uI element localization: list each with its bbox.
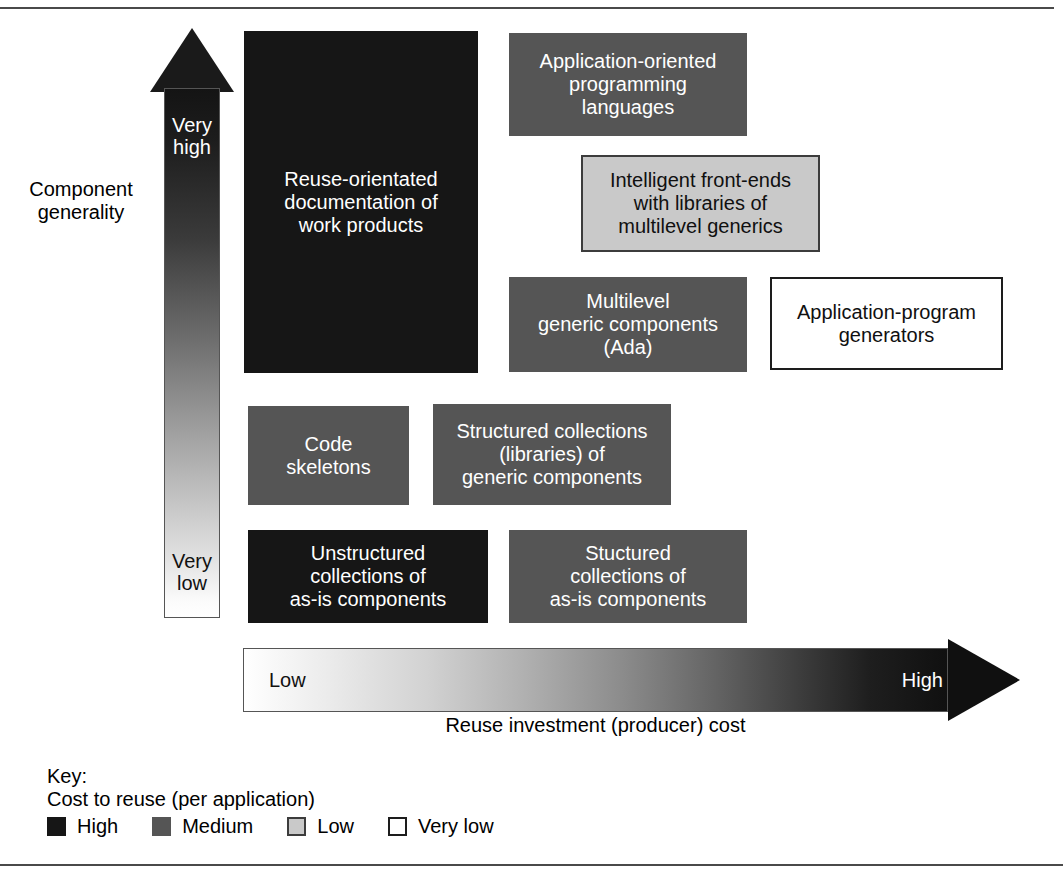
swatch-low-icon (287, 817, 306, 836)
key-heading-block: Key: Cost to reuse (per application) (47, 765, 315, 811)
cell-label: Reuse-orientated documentation of work p… (284, 168, 437, 237)
cell-label: Application-program generators (797, 301, 976, 347)
frame-rule-bottom (0, 864, 1063, 866)
key-entry-label: High (77, 815, 118, 838)
cell-application-program-generators: Application-program generators (770, 277, 1003, 370)
cell-label: Multilevel generic components (Ada) (538, 290, 718, 359)
frame-rule-top (0, 7, 1054, 9)
cell-code-skeletons: Code skeletons (248, 406, 409, 505)
key-entry-high: High (47, 815, 118, 838)
key-legend: High Medium Low Very low (47, 815, 494, 838)
cell-multilevel-generic-components: Multilevel generic components (Ada) (509, 277, 747, 372)
y-axis-top-label-line1: Very (172, 114, 212, 136)
x-axis-high-label: High (873, 669, 943, 692)
cost-gradient-bar (243, 648, 948, 712)
cell-label: Unstructured collections of as-is compon… (290, 542, 447, 611)
cell-label: Application-oriented programming languag… (540, 50, 717, 119)
y-axis-bottom-label-line2: low (177, 572, 207, 594)
cell-label: Intelligent front-ends with libraries of… (610, 169, 791, 238)
right-arrow-icon (948, 639, 1020, 721)
x-axis-low-label: Low (269, 669, 306, 692)
generality-gradient-bar (164, 88, 220, 618)
y-axis-top-label-line2: high (173, 136, 211, 158)
cell-label: Stuctured collections of as-is component… (550, 542, 707, 611)
up-arrow-icon (150, 28, 234, 92)
swatch-medium-icon (152, 817, 171, 836)
cell-application-oriented-programming-languages: Application-oriented programming languag… (509, 33, 747, 136)
swatch-very-low-icon (388, 817, 407, 836)
reuse-investment-cost-axis-arrow: Low High (243, 639, 1020, 721)
cell-unstructured-collections-as-is: Unstructured collections of as-is compon… (248, 530, 488, 623)
key-subtitle: Cost to reuse (per application) (47, 788, 315, 811)
x-axis-title: Reuse investment (producer) cost (243, 714, 948, 737)
cell-stuctured-collections-as-is: Stuctured collections of as-is component… (509, 530, 747, 623)
cell-structured-collections-libraries: Structured collections (libraries) of ge… (433, 404, 671, 505)
key-entry-label: Medium (182, 815, 253, 838)
cell-reuse-orientated-documentation: Reuse-orientated documentation of work p… (244, 31, 478, 373)
key-title: Key: (47, 765, 315, 788)
key-entry-label: Low (317, 815, 354, 838)
key-entry-label: Very low (418, 815, 494, 838)
y-axis-bottom-label-line1: Very (172, 550, 212, 572)
key-entry-very-low: Very low (388, 815, 494, 838)
y-axis-title-line2: generality (38, 201, 125, 223)
cell-label: Code skeletons (286, 433, 371, 479)
y-axis-title-line1: Component (29, 178, 132, 200)
cell-label: Structured collections (libraries) of ge… (456, 420, 647, 489)
key-entry-medium: Medium (152, 815, 253, 838)
y-axis-bottom-label: Verylow (164, 550, 220, 594)
component-generality-axis-arrow: Veryhigh Verylow (150, 28, 234, 618)
y-axis-title: Componentgenerality (18, 178, 144, 224)
key-entry-low: Low (287, 815, 354, 838)
cell-intelligent-front-ends: Intelligent front-ends with libraries of… (581, 155, 820, 252)
reuse-maturity-diagram: Veryhigh Verylow Componentgenerality Reu… (0, 0, 1063, 881)
swatch-high-icon (47, 817, 66, 836)
y-axis-top-label: Veryhigh (164, 114, 220, 158)
